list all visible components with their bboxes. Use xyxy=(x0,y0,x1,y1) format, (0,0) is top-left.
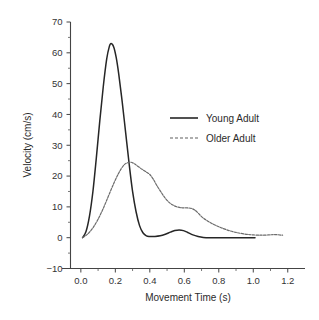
y-tick-label: 60 xyxy=(52,47,63,58)
y-tick-label: 30 xyxy=(52,140,63,151)
chart-plot-area: 706050403020100−10 Velocity (cm/s) 0.00.… xyxy=(0,0,319,320)
legend-label-young-adult: Young Adult xyxy=(206,113,259,124)
x-tick-label: 1.2 xyxy=(281,275,294,286)
x-tick-label: 1.0 xyxy=(247,275,260,286)
x-tick-label: 0.8 xyxy=(212,275,225,286)
x-axis-tick-labels: 0.00.20.40.60.81.01.2 xyxy=(74,275,294,286)
y-axis-title: Velocity (cm/s) xyxy=(22,112,33,177)
x-tick-label: 0.4 xyxy=(143,275,156,286)
y-tick-label: 40 xyxy=(52,109,63,120)
y-axis-tick-labels: 706050403020100−10 xyxy=(46,16,62,274)
x-axis-ticks xyxy=(81,269,288,273)
y-tick-label: −10 xyxy=(46,263,62,274)
y-tick-label: 50 xyxy=(52,78,63,89)
x-tick-label: 0.6 xyxy=(178,275,191,286)
y-tick-label: 0 xyxy=(57,232,62,243)
x-axis-title: Movement Time (s) xyxy=(145,292,231,303)
x-axis-group: 0.00.20.40.60.81.01.2 Movement Time (s) xyxy=(62,269,305,304)
legend-label-older-adult: Older Adult xyxy=(206,133,256,144)
y-tick-label: 10 xyxy=(52,201,63,212)
y-axis-ticks xyxy=(67,22,71,269)
x-tick-label: 0.2 xyxy=(109,275,122,286)
legend: Young Adult Older Adult xyxy=(170,113,259,144)
x-tick-label: 0.0 xyxy=(74,275,87,286)
y-tick-label: 70 xyxy=(52,16,63,27)
series-line-older-adult xyxy=(83,162,283,238)
y-tick-label: 20 xyxy=(52,170,63,181)
y-axis-group: 706050403020100−10 Velocity (cm/s) xyxy=(22,16,71,274)
velocity-time-chart-figure: 706050403020100−10 Velocity (cm/s) 0.00.… xyxy=(0,0,319,320)
